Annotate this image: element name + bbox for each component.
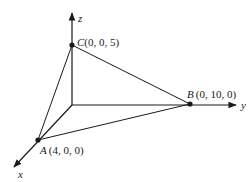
point-a <box>35 137 40 142</box>
point-c <box>69 42 74 47</box>
point-b <box>187 101 192 106</box>
point-a-label: A(4, 0, 0) <box>39 144 84 157</box>
point-c-label: C(0, 0, 5) <box>77 36 120 49</box>
edge-a-b <box>38 104 190 140</box>
x-axis <box>14 105 72 167</box>
point-b-label: B(0, 10, 0) <box>187 88 236 101</box>
z-axis-label: z <box>77 12 83 24</box>
diagram-canvas: z y x C(0, 0, 5) B(0, 10, 0) A(4, 0, 0) <box>0 0 252 182</box>
edge-c-a <box>38 45 72 140</box>
x-axis-label: x <box>17 168 23 180</box>
y-axis-label: y <box>240 99 246 111</box>
edge-c-b <box>72 45 190 104</box>
